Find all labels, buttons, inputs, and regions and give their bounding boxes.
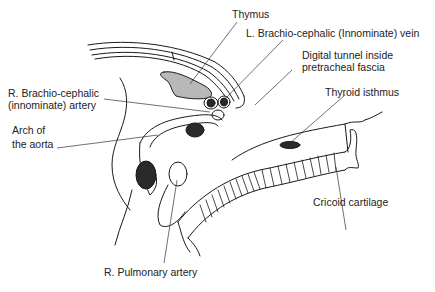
label-thymus: Thymus (232, 8, 269, 20)
label-cricoid-cartilage: Cricoid cartilage (313, 196, 388, 208)
label-arch-aorta-line2: the aorta (12, 138, 53, 150)
label-digital-tunnel-line2: pretracheal fascia (302, 61, 385, 73)
label-r-brachiocephalic-artery-line1: R. Brachio-cephalic (8, 87, 99, 99)
label-arch-aorta-line1: Arch of (12, 124, 45, 136)
label-r-brachiocephalic-artery-line2: (innominate) artery (8, 99, 96, 111)
label-digital-tunnel-line1: Digital tunnel inside (302, 49, 393, 61)
label-thyroid-isthmus: Thyroid isthmus (325, 86, 399, 98)
label-l-brachiocephalic-vein: L. Brachio-cephalic (Innominate) vein (246, 27, 419, 39)
anatomy-diagram: Thymus L. Brachio-cephalic (Innominate) … (0, 0, 435, 292)
thymus-shape (160, 72, 211, 99)
diagram-drawing (0, 0, 435, 292)
label-r-pulmonary-artery: R. Pulmonary artery (104, 266, 197, 278)
